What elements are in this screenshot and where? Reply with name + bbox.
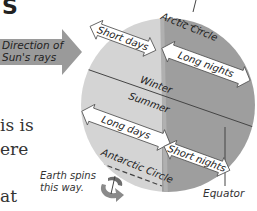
sun-label-line-1: Direction of: [2, 39, 68, 51]
equator-label: Equator: [203, 187, 244, 199]
earth-spins-label: Earth spins this way.: [40, 170, 100, 193]
spin-label-line-1: Earth spins: [40, 170, 100, 182]
seasons-diagram: Short days Long nights Long days Short n…: [0, 0, 257, 211]
rotation-arrow-icon: [101, 176, 124, 202]
sun-label-line-2: Sun's rays: [2, 51, 68, 63]
earth-axis: [193, 0, 196, 12]
sun-direction-label: Direction of Sun's rays: [2, 39, 68, 63]
spin-label-line-2: this way.: [40, 182, 100, 194]
